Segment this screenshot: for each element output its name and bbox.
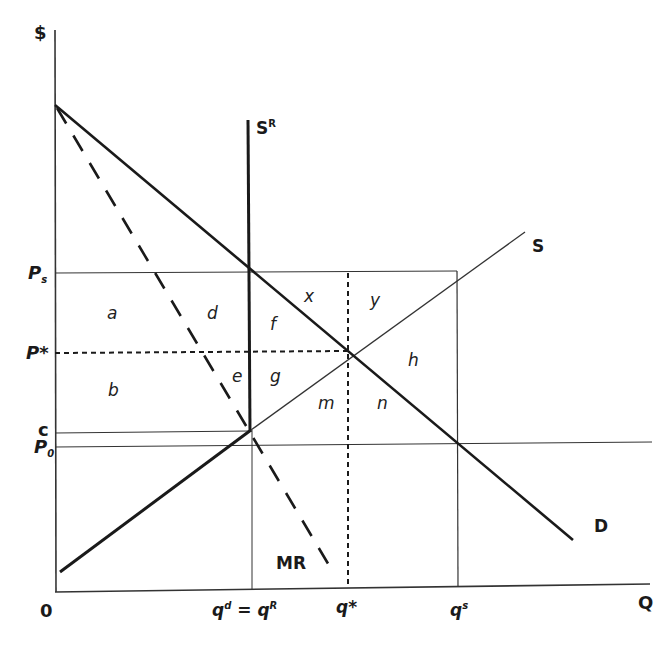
area-h: h xyxy=(408,350,419,370)
p0-main: P xyxy=(34,436,47,457)
p0-label: P0 xyxy=(34,436,54,459)
area-a: a xyxy=(107,303,117,323)
restricted-supply-label: SR xyxy=(256,118,276,138)
restricted-supply-curve xyxy=(248,120,250,432)
qs-main: q xyxy=(450,600,462,620)
area-x: x xyxy=(304,286,314,306)
q-star-label: q* xyxy=(336,597,357,617)
area-f: f xyxy=(270,314,276,334)
qs-label: qs xyxy=(450,600,468,620)
area-n: n xyxy=(377,393,388,413)
origin-label: 0 xyxy=(40,600,53,621)
ps-label: Ps xyxy=(28,262,47,285)
supply-curve-upper xyxy=(251,232,525,430)
p-star-label: P* xyxy=(26,342,49,363)
qr-sup: R xyxy=(270,600,278,611)
y-axis xyxy=(55,30,56,592)
qs-sup: s xyxy=(462,600,468,611)
p0-line xyxy=(55,442,652,447)
c-line xyxy=(55,431,250,433)
area-b: b xyxy=(108,380,119,400)
demand-label: D xyxy=(594,516,608,536)
mr-label: MR xyxy=(276,553,306,573)
sr-sup: R xyxy=(268,118,276,129)
qd-qr-label: qd = qR xyxy=(212,600,277,620)
area-d: d xyxy=(207,303,218,323)
qd-main: q xyxy=(212,600,224,620)
supply-label: S xyxy=(532,236,544,256)
qr-main: q xyxy=(257,600,269,620)
ps-main: P xyxy=(28,262,41,283)
qs-line xyxy=(457,271,458,587)
supply-curve-lower xyxy=(60,430,251,572)
economics-diagram xyxy=(0,0,668,652)
area-e: e xyxy=(232,366,242,386)
p0-sub: 0 xyxy=(47,448,54,459)
y-axis-label: $ xyxy=(34,22,47,43)
demand-curve xyxy=(55,105,573,540)
eq-sign: = xyxy=(231,600,257,620)
marginal-revenue-curve xyxy=(57,108,333,572)
x-axis xyxy=(55,584,650,592)
sr-main: S xyxy=(256,118,268,138)
area-m: m xyxy=(318,393,335,413)
ps-sub: s xyxy=(41,274,47,285)
p-star-line xyxy=(55,351,347,353)
area-g: g xyxy=(270,366,281,386)
x-axis-label: Q xyxy=(638,592,653,613)
area-y: y xyxy=(370,290,380,310)
